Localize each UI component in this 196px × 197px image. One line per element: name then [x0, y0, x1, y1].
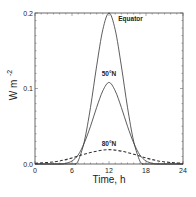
x-axis-title: Time, h	[93, 174, 126, 185]
y-tick-label: 0.1	[23, 85, 33, 92]
x-tick-label: 0	[33, 167, 37, 174]
annotation-label: 80°N	[102, 140, 117, 147]
y-axis-title: W m -2	[6, 70, 19, 101]
series-line-50n	[35, 82, 183, 164]
curve-annotations: Equator50°N80°N	[102, 15, 144, 147]
x-tick-labels: 06121824	[33, 167, 187, 174]
x-tick-label: 24	[179, 167, 187, 174]
y-tick-label: 0.2	[23, 10, 33, 17]
x-tick-label: 18	[142, 167, 150, 174]
annotation-label: 50°N	[102, 70, 117, 77]
y-tick-labels: 0.00.10.2	[23, 10, 33, 168]
y-axis-title-exponent: -2	[6, 70, 13, 76]
x-tick-label: 6	[70, 167, 74, 174]
line-chart: 06121824 0.00.10.2 Equator50°N80°N Time,…	[0, 0, 196, 197]
annotation-label: Equator	[118, 15, 143, 23]
x-tick-label: 12	[105, 167, 113, 174]
y-tick-label: 0.0	[23, 161, 33, 168]
y-axis-title-text: W m	[8, 80, 19, 101]
